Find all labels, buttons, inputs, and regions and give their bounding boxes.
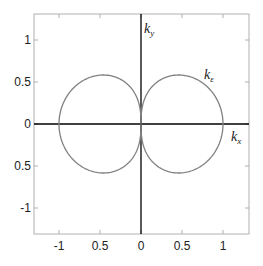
kx-axis-label: kx	[231, 129, 241, 146]
y-tick-label: -1	[20, 201, 31, 215]
k-epsilon-label: kε	[204, 67, 214, 84]
y-tick-label: 0.5	[14, 75, 31, 89]
x-tick-label: 0	[138, 239, 145, 253]
tick-labels: -10.500.5110.500.5-1	[14, 33, 226, 253]
x-tick-label: -1	[54, 239, 65, 253]
ky-axis-label: ky	[144, 21, 154, 38]
x-tick-label: 1	[220, 239, 227, 253]
x-tick-label: 0.5	[174, 239, 191, 253]
x-tick-label: 0.5	[92, 239, 109, 253]
y-tick-label: 0	[24, 117, 31, 131]
y-tick-label: 1	[24, 33, 31, 47]
y-tick-label: 0.5	[14, 159, 31, 173]
chart: -10.500.5110.500.5-1 ky kx kε	[0, 0, 263, 266]
